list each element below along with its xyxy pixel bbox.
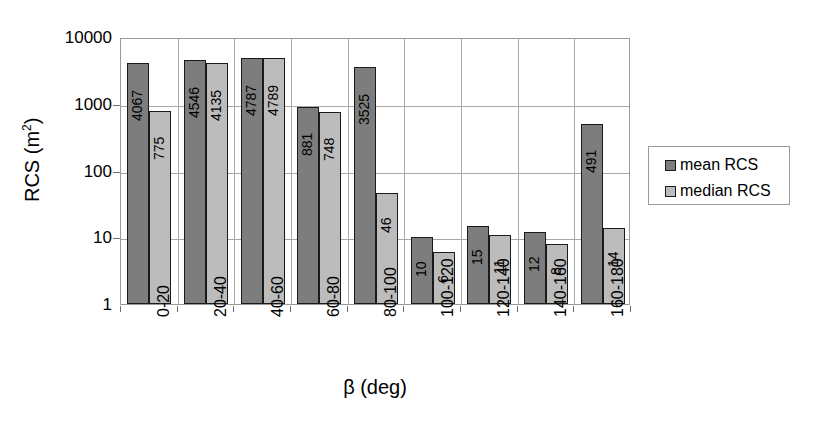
y-axis-title-exponent: 2	[20, 124, 34, 131]
x-axis-title: β (deg)	[285, 376, 465, 399]
x-axis-tick-mark	[517, 306, 518, 312]
x-axis-tick-label: 40-60	[270, 276, 286, 317]
x-axis-tick-mark	[403, 306, 404, 312]
y-axis-tick-label: 100	[84, 163, 112, 180]
rcs-bar-chart: 100001000100101 RCS (m2) 406777545464135…	[0, 0, 828, 425]
y-axis-tick-mark	[113, 238, 120, 239]
bar-value-label: 4067	[130, 90, 144, 121]
x-axis-tick-label: 0-20	[156, 285, 172, 317]
bar-value-label: 15	[470, 250, 484, 266]
y-axis-tick-label: 10000	[65, 29, 112, 46]
x-axis-tick-label: 140-160	[553, 258, 569, 317]
gridline-vertical	[178, 39, 179, 304]
gridline-vertical	[404, 39, 405, 304]
x-axis-tick-mark	[233, 306, 234, 312]
legend-swatch-median-icon	[665, 186, 676, 197]
x-axis-tick-label: 80-100	[383, 267, 399, 317]
bar-group: 45464135	[184, 39, 228, 304]
y-axis-tick-label: 1	[103, 296, 112, 313]
gridline-vertical	[348, 39, 349, 304]
x-axis-tick-mark	[347, 306, 348, 312]
y-axis-tick-label: 10	[93, 229, 112, 246]
x-axis-tick-label: 20-40	[213, 276, 229, 317]
legend-label: mean RCS	[680, 157, 758, 173]
bar-group: 47874789	[241, 39, 285, 304]
y-axis-title: RCS (m2)	[20, 80, 44, 240]
x-axis-tick-mark	[290, 306, 291, 312]
x-axis-tick-label: 160-180	[610, 258, 626, 317]
gridline-vertical	[291, 39, 292, 304]
gridline-vertical	[461, 39, 462, 304]
bar-value-label: 881	[300, 133, 314, 156]
x-axis-tick-mark	[630, 306, 631, 312]
bar-value-label: 3525	[357, 94, 371, 125]
legend-label: median RCS	[680, 183, 771, 199]
bar-value-label: 491	[584, 150, 598, 173]
x-axis-tick-mark	[460, 306, 461, 312]
bar-group: 881748	[297, 39, 341, 304]
y-axis-tick-mark	[113, 105, 120, 106]
bar-value-label: 46	[379, 217, 393, 233]
bar-value-label: 4789	[266, 85, 280, 116]
y-axis-tick-mark	[113, 172, 120, 173]
bar-value-label: 12	[527, 256, 541, 272]
chart-legend: mean RCSmedian RCS	[648, 146, 790, 205]
x-axis-tick-mark	[177, 306, 178, 312]
bar-value-label: 4787	[244, 85, 258, 116]
bar-value-label: 748	[322, 138, 336, 161]
x-axis-tick-mark	[573, 306, 574, 312]
legend-item-median[interactable]: median RCS	[665, 183, 771, 199]
gridline-vertical	[234, 39, 235, 304]
x-axis-tick-label: 100-120	[440, 258, 456, 317]
gridline-vertical	[574, 39, 575, 304]
bar-group: 4067775	[127, 39, 171, 304]
y-axis-tick-label: 1000	[74, 96, 112, 113]
y-axis-title-close: )	[21, 118, 43, 125]
x-axis-tick-mark	[120, 306, 121, 312]
bar-value-label: 10	[414, 262, 428, 278]
bar-value-label: 4135	[209, 89, 223, 120]
bar-group: 352546	[354, 39, 398, 304]
bar-value-label: 4546	[187, 87, 201, 118]
y-axis-tick-labels: 100001000100101	[0, 0, 112, 425]
x-axis-tick-label: 120-140	[496, 258, 512, 317]
legend-swatch-mean-icon	[665, 160, 676, 171]
x-axis-tick-label: 60-80	[326, 276, 342, 317]
bar-value-label: 775	[152, 137, 166, 160]
gridline-vertical	[518, 39, 519, 304]
y-axis-title-base: RCS (m	[21, 131, 43, 202]
legend-item-mean[interactable]: mean RCS	[665, 157, 758, 173]
